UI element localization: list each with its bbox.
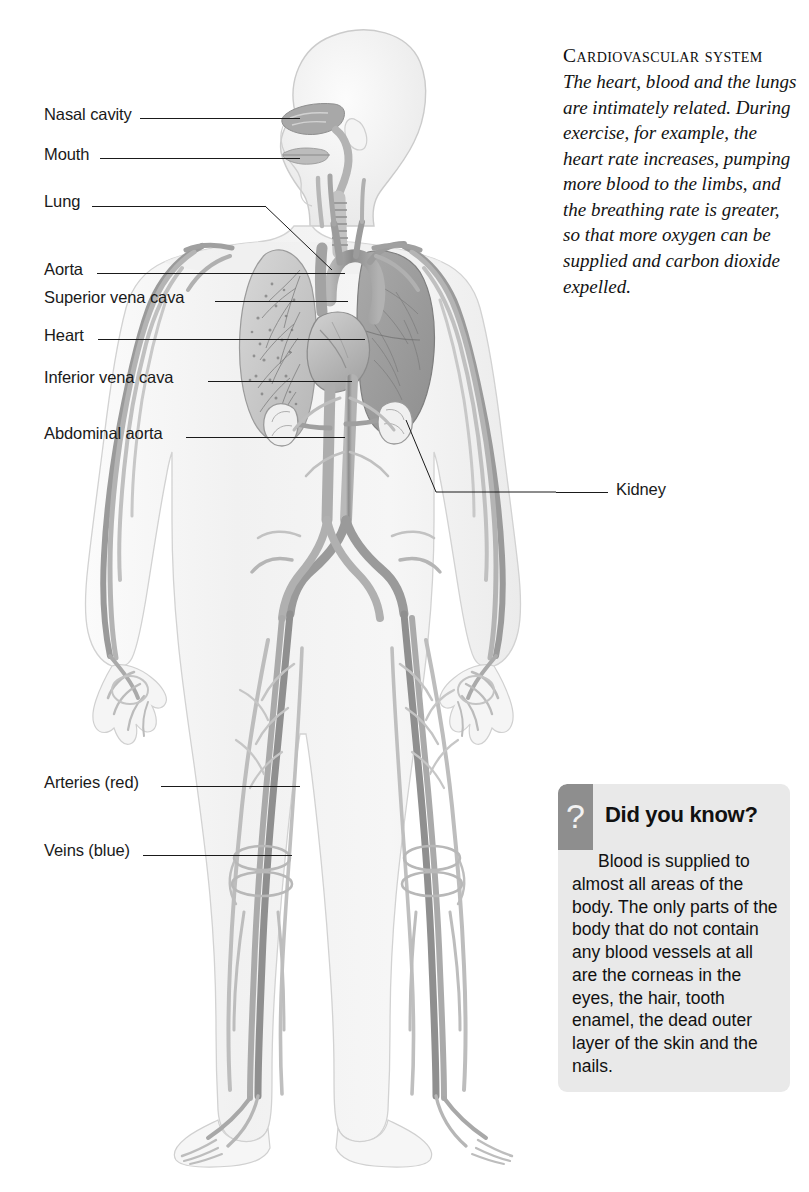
external-jugular-vein <box>362 180 364 222</box>
leader-line <box>161 786 300 787</box>
right-toe-branch-3 <box>472 1154 504 1164</box>
body-silhouette <box>85 30 520 1167</box>
label-lung: Lung <box>44 193 80 210</box>
label-superior-vena-cava: Superior vena cava <box>44 289 184 306</box>
article-text-column: Cardiovascular system The heart, blood a… <box>563 44 801 299</box>
article-title: Cardiovascular system <box>563 44 801 68</box>
leader-line <box>143 855 292 856</box>
label-heart: Heart <box>44 327 84 344</box>
leader-line <box>208 381 352 382</box>
question-mark-glyph: ? <box>566 799 585 833</box>
label-abdominal-aorta: Abdominal aorta <box>44 425 163 442</box>
leader-line <box>215 301 348 302</box>
right-posterior-tibial <box>450 912 460 1030</box>
leader-line <box>140 118 300 119</box>
inferior-vena-cava <box>327 388 330 520</box>
leader-line <box>92 206 265 207</box>
label-inferior-vena-cava: Inferior vena cava <box>44 369 173 386</box>
superior-vena-cava <box>321 248 323 312</box>
leader-line <box>100 158 300 159</box>
label-mouth: Mouth <box>44 146 89 163</box>
right-dorsalis-pedis <box>444 1098 486 1138</box>
anatomy-figure <box>0 0 560 1192</box>
label-arteries-red: Arteries (red) <box>44 774 139 791</box>
kidney-left <box>264 404 298 446</box>
label-aorta: Aorta <box>44 261 83 278</box>
label-veins-blue: Veins (blue) <box>44 842 130 859</box>
did-you-know-body: Blood is supplied to almost all areas of… <box>572 850 778 1078</box>
label-nasal-cavity: Nasal cavity <box>44 106 132 123</box>
kidney-right <box>378 402 412 444</box>
leader-line <box>186 437 345 438</box>
cardiovascular-system-svg <box>0 0 560 1192</box>
leader-line <box>556 492 608 493</box>
label-kidney: Kidney <box>616 481 666 498</box>
question-mark-icon: ? <box>558 784 593 850</box>
article-body: The heart, blood and the lungs are intim… <box>563 69 801 299</box>
did-you-know-heading: Did you know? <box>605 802 758 828</box>
did-you-know-box: ? Did you know? Blood is supplied to alm… <box>558 784 790 1092</box>
leader-line <box>97 273 345 274</box>
right-toe-branch-1 <box>478 1140 512 1156</box>
abdominal-aorta <box>346 380 352 520</box>
leader-line <box>98 339 365 340</box>
